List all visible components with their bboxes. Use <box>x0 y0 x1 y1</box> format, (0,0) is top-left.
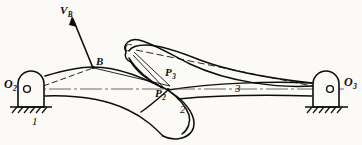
label-o2: O2 <box>4 78 17 93</box>
diagram-canvas <box>0 0 362 145</box>
pivot-o3-pin <box>327 86 334 93</box>
label-p2: P2 <box>155 88 166 102</box>
joint-b-marker <box>92 66 95 69</box>
link-1-body <box>45 67 168 136</box>
label-link-3: 3 <box>235 83 241 94</box>
joint-p2-marker <box>166 88 169 91</box>
pivot-o2-pin <box>24 86 31 93</box>
label-link-1: 1 <box>32 116 38 127</box>
construction-lines <box>35 50 322 90</box>
label-o3: O3 <box>344 76 357 91</box>
linkage-diagram: O2 O3 B C P2 P3 VB 1 2 3 <box>0 0 362 145</box>
label-link-2: 2 <box>180 104 186 115</box>
pivot-o3 <box>305 71 348 113</box>
ground-hatch-left <box>12 107 47 113</box>
coupler-link-body <box>125 40 312 88</box>
velocity-vector-vb <box>69 16 93 68</box>
link-2-body <box>141 90 194 139</box>
label-vb: VB <box>60 5 73 19</box>
label-c: C <box>124 42 131 53</box>
ground-hatch-right <box>307 107 342 113</box>
label-b: B <box>96 56 103 67</box>
label-p3: P3 <box>165 67 176 81</box>
